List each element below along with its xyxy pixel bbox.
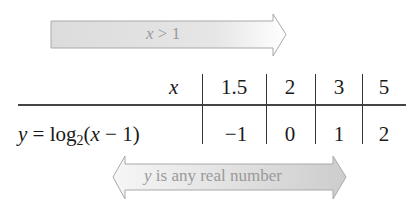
column-divider [266, 74, 267, 144]
domain-label: x > 1 [146, 24, 180, 44]
x-value: 5 [379, 75, 390, 99]
y-var: y [18, 122, 27, 146]
y-row-header: y = log2(x − 1) [18, 122, 140, 146]
x-row-header: x [169, 75, 178, 99]
x-value: 3 [334, 75, 345, 99]
column-divider [362, 74, 363, 144]
y-value: 1 [334, 122, 345, 146]
y-value: 2 [379, 122, 390, 146]
domain-label-rest: > 1 [154, 24, 181, 43]
header-divider [18, 104, 406, 106]
inner-rest: − 1) [100, 122, 140, 146]
column-divider [315, 74, 316, 144]
log-text: = log [27, 122, 76, 146]
x-value: 1.5 [221, 75, 247, 99]
range-label-rest: is any real number [152, 166, 282, 185]
paren-open: ( [84, 122, 91, 146]
x-value: 2 [285, 75, 296, 99]
domain-label-var: x [146, 24, 154, 43]
x-var: x [169, 75, 178, 99]
y-value: −1 [225, 122, 247, 146]
range-label-var: y [144, 166, 152, 185]
y-value: 0 [285, 122, 296, 146]
range-label: y is any real number [144, 166, 282, 186]
log-base: 2 [77, 133, 84, 148]
column-divider [202, 74, 203, 144]
inner-x-var: x [91, 122, 100, 146]
